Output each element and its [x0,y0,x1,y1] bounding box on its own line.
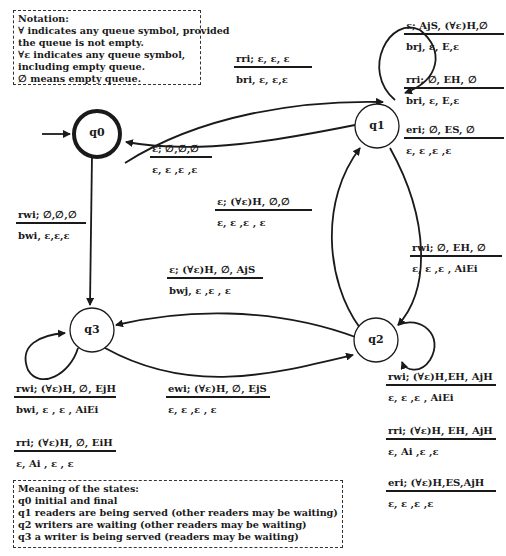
transition-label-q0-q3: rwi; ∅,∅,∅bwi, ε,ε,ε [16,209,86,242]
notation-title: Notation: [18,13,196,25]
state-q1-label: q1 [362,119,392,132]
edge-q0-q3 [90,155,92,305]
transition-label-q1-loop-a: ε; AjS, (∀ε)H,∅brj, ε, E,ε [404,20,504,53]
edge-q2-q3 [116,313,358,338]
state-q0-label: q0 [82,126,112,139]
notation-line: the queue is not empty. [18,37,196,49]
states-meaning-box: Meaning of the states: q0 initial and fi… [13,480,343,548]
states-meaning-line: q2 writers are waiting (other readers ma… [18,519,338,531]
edge-q2-q1 [332,148,360,328]
transition-label-q1-loop-b: rri; ∅, EH, ∅bri, ε, E,ε [404,74,504,107]
edge-q3-q2 [105,348,353,377]
transition-label-q2-q3: ε; (∀ε)H, ∅, AjSbwj, ε ,ε , ε [167,264,263,297]
transition-label-q3-q2: ewi; (∀ε)H, ∅, EjSε, ε ,ε , ε [166,383,270,416]
transition-label-q2-loop-c: eri; (∀ε)H,ES,AjHε, ε ,ε ,ε [386,477,496,510]
states-meaning-line: q1 readers are being served (other reade… [18,507,338,519]
notation-line: ∀ε indicates any queue symbol, [18,49,196,61]
notation-line: ∀ indicates any queue symbol, provided [18,25,196,37]
transition-label-q1-q0: ε; ∅,∅,∅ε, ε ,ε ,ε [150,143,212,176]
transition-label-q3-loop-b: rri; (∀ε)H, ∅, EiHε, Ai , ε , ε [14,437,116,470]
states-meaning-line: q0 initial and final [18,495,338,507]
transition-label-q2-loop-a: rwi; (∀ε)H,EH, AjHε, ε ,ε , AiEi [386,371,496,404]
state-q2-label: q2 [361,333,391,346]
transition-label-q0-q1: rri; ε, ε, εbri, ε, ε,ε [234,53,312,86]
notation-box: Notation: ∀ indicates any queue symbol, … [13,10,201,85]
notation-line: including empty queue. [18,61,196,73]
notation-line: ∅ means empty queue. [18,73,196,85]
edge-q3-loop [26,333,78,379]
transition-label-q2-q1: ε; (∀ε)H, ∅,∅ε, ε ,ε , ε [215,196,312,229]
transition-label-q2-loop-b: rri; (∀ε)H, EH, AjHε, Ai ,ε ,ε [386,425,496,458]
transition-label-q1-q2: rwi; ∅, EH, ∅ε, ε ,ε , AiEi [410,242,502,275]
edge-q1-q2 [390,148,421,325]
transition-label-q1-loop-c: eri; ∅, ES, ∅ε, ε ,ε ,ε [404,124,504,157]
state-q3-label: q3 [77,323,107,336]
transition-label-q3-loop-a: rwi; (∀ε)H, ∅, EjHbwi, ε , ε , AiEi [14,383,116,416]
edge-q2-loop [398,322,435,369]
states-meaning-title: Meaning of the states: [18,483,338,495]
states-meaning-line: q3 a writer is being served (readers may… [18,531,338,543]
